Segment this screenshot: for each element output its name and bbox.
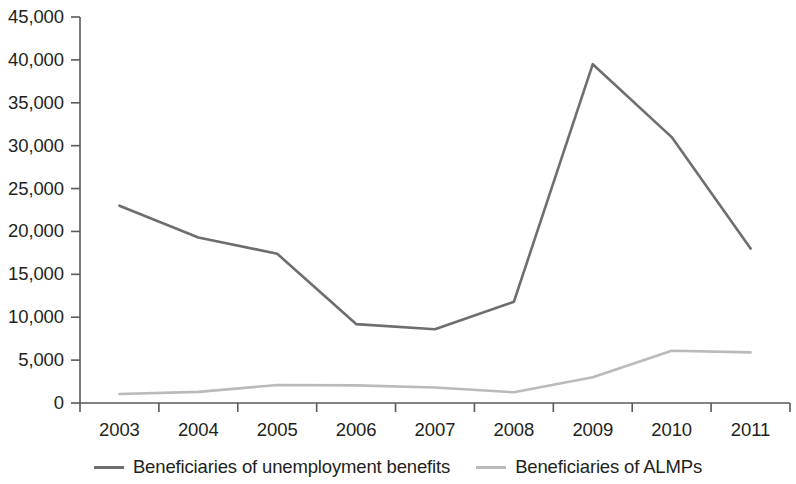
y-axis-tick-label: 15,000	[0, 265, 64, 284]
x-axis-tick-label: 2005	[238, 421, 317, 440]
x-axis-tick-label: 2011	[711, 421, 790, 440]
y-axis-tick-label: 45,000	[0, 8, 64, 27]
y-axis-tick-label: 25,000	[0, 180, 64, 199]
x-axis-tick-label: 2004	[159, 421, 238, 440]
y-axis-tick-label: 30,000	[0, 137, 64, 156]
x-axis-ticks	[80, 403, 790, 412]
y-axis-tick-label: 10,000	[0, 308, 64, 327]
x-axis-tick-label: 2006	[317, 421, 396, 440]
series-line-2	[119, 351, 750, 394]
y-axis-tick-label: 20,000	[0, 222, 64, 241]
legend-label: Beneficiaries of unemployment benefits	[133, 458, 450, 477]
legend-line-swatch	[94, 466, 124, 469]
line-chart: 05,00010,00015,00020,00025,00030,00035,0…	[0, 0, 796, 484]
data-series-group	[119, 64, 750, 394]
legend-item: Beneficiaries of ALMPs	[476, 458, 702, 477]
axes	[80, 17, 790, 403]
x-axis-tick-label: 2007	[396, 421, 475, 440]
legend-line-swatch	[476, 466, 506, 469]
legend-label: Beneficiaries of ALMPs	[515, 458, 702, 477]
chart-legend: Beneficiaries of unemployment benefitsBe…	[0, 450, 796, 484]
y-axis-tick-label: 35,000	[0, 94, 64, 113]
series-line-1	[119, 64, 750, 329]
y-axis-tick-label: 0	[0, 394, 64, 413]
x-axis-tick-label: 2010	[632, 421, 711, 440]
y-axis-tick-label: 5,000	[0, 351, 64, 370]
y-axis-ticks	[71, 17, 80, 403]
x-axis-tick-label: 2003	[80, 421, 159, 440]
y-axis-tick-label: 40,000	[0, 51, 64, 70]
legend-item: Beneficiaries of unemployment benefits	[94, 458, 450, 477]
x-axis-tick-label: 2009	[553, 421, 632, 440]
x-axis-tick-label: 2008	[474, 421, 553, 440]
plot-area	[0, 0, 796, 484]
